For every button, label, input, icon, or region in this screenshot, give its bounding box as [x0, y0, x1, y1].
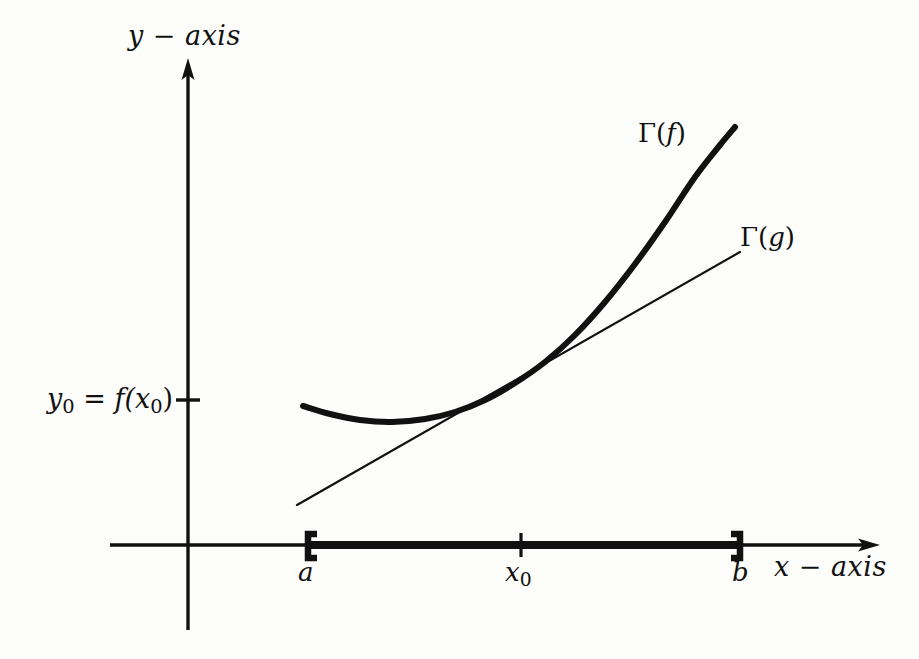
curve-f-annotation: Γ(f): [638, 118, 686, 148]
curve-g-annotation: Γ(g): [740, 222, 795, 252]
gamma-g-name: g: [768, 222, 785, 252]
x-tick-label-x0: x0: [505, 557, 532, 590]
gamma-f-open: Γ(: [638, 118, 666, 148]
y-axis-label: y − axis: [128, 20, 241, 51]
function-curve-f: [303, 127, 735, 422]
gamma-f-close: ): [676, 118, 686, 148]
y-value-suffix: ): [163, 383, 174, 414]
gamma-g-close: ): [785, 222, 795, 252]
y-value-subscript: 0: [62, 395, 74, 418]
y-value-mid: = f(x: [75, 383, 151, 414]
y-value-label: y0 = f(x0): [47, 383, 173, 418]
gamma-g-open: Γ(: [740, 222, 768, 252]
x0-subscript: 0: [520, 569, 532, 590]
gamma-f-name: f: [666, 118, 676, 148]
figure-canvas: y − axis x − axis y0 = f(x0) a x0 b Γ(f)…: [0, 0, 919, 659]
x-tick-label-a: a: [298, 557, 314, 587]
y-value-subscript-2: 0: [150, 395, 162, 418]
x-tick-label-b: b: [732, 557, 749, 587]
x0-base: x: [505, 557, 520, 587]
x-axis-label: x − axis: [774, 551, 887, 582]
y-value-prefix: y: [47, 383, 62, 414]
